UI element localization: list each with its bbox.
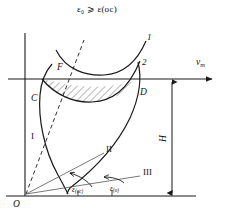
title-formula: ε₀ ⩾ ε(ос)	[77, 5, 117, 14]
point-f-label: F	[57, 63, 63, 73]
angle-label-2: ε(о)	[110, 185, 119, 194]
curve-1-label: 1	[147, 33, 152, 42]
height-dimension-label: H	[159, 135, 169, 142]
horizontal-axis-label: vт	[196, 58, 205, 68]
zone-one-label: I	[31, 132, 34, 141]
zone-two-label: II	[106, 145, 112, 154]
dashed-ray	[26, 40, 84, 194]
point-c-label: C	[31, 94, 37, 104]
zone-three-label: III	[143, 168, 152, 177]
point-d-label: D	[140, 88, 147, 98]
angle-label-1: ε(ос)	[72, 186, 83, 195]
curve-2-label: 2	[142, 58, 147, 67]
velocity-profile-diagram: ε₀ ⩾ ε(ос) vт 1 2 F C D I II III H ε(ос)…	[0, 0, 232, 221]
curve-1	[56, 41, 146, 75]
origin-label: O	[13, 200, 20, 210]
hatched-region	[42, 79, 137, 102]
